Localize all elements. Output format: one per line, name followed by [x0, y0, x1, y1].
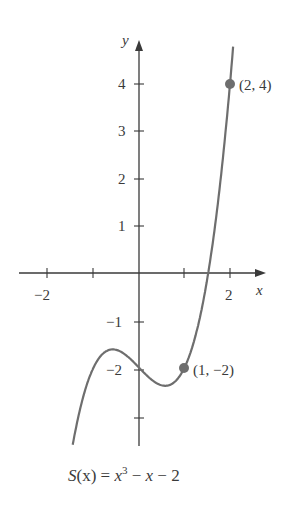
y-tick-label-2: 2 — [118, 171, 126, 187]
x-tick-label-2: 2 — [225, 287, 233, 303]
graph-canvas: −2 2 x y 4 3 2 1 −1 −2 (1, −2) (2, 4) — [0, 0, 305, 517]
y-tick-label-1: 1 — [118, 218, 126, 234]
point-2-4 — [225, 79, 235, 89]
y-tick-label-3: 3 — [118, 123, 126, 139]
caption-function-name: S — [68, 466, 77, 485]
caption-op: − — [127, 466, 145, 485]
x-axis-label: x — [255, 282, 263, 298]
point-1-neg2 — [179, 363, 189, 373]
caption-var: x — [114, 466, 122, 485]
point-label-2-4: (2, 4) — [239, 77, 272, 94]
caption-tail: − 2 — [153, 466, 180, 485]
y-tick-label-neg2: −2 — [106, 362, 122, 378]
x-tick-label-neg2: −2 — [34, 287, 50, 303]
y-axis-arrow-icon — [135, 40, 143, 51]
caption-var2: x — [146, 466, 154, 485]
y-tick-label-neg1: −1 — [106, 314, 122, 330]
caption-arg: (x) = — [77, 466, 115, 485]
point-label-1-neg2: (1, −2) — [193, 362, 234, 379]
function-caption: S(x) = x3 − x − 2 — [68, 464, 180, 486]
function-curve — [73, 47, 233, 445]
y-tick-label-4: 4 — [118, 76, 126, 92]
x-axis-arrow-icon — [255, 269, 266, 277]
y-axis-label: y — [120, 32, 129, 48]
